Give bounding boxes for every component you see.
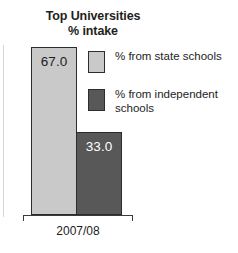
- bar-state-schools: 67.0: [31, 47, 77, 215]
- bar-independent-schools: 33.0: [76, 132, 122, 215]
- x-axis-tick-right: [132, 215, 133, 221]
- bar-chart: Top Universities % intake 67.0 33.0 2007…: [0, 0, 238, 253]
- bar-value-state-schools: 67.0: [32, 54, 76, 69]
- legend-swatch-state-schools-icon: [88, 51, 105, 73]
- bar-value-independent-schools: 33.0: [77, 139, 121, 154]
- legend-label-independent-schools: % from independent schools: [115, 87, 237, 115]
- x-axis-baseline: [23, 215, 133, 216]
- plot-left-rule: [3, 45, 4, 217]
- x-axis-category-label: 2007/08: [18, 224, 138, 238]
- plot-area: 67.0 33.0: [31, 47, 123, 215]
- x-axis-tick-left: [23, 215, 24, 221]
- legend-label-state-schools: % from state schools: [115, 49, 237, 63]
- chart-title-line-1: Top Universities: [46, 9, 141, 23]
- legend-swatch-independent-schools-icon: [88, 89, 105, 111]
- chart-title-line-2: % intake: [14, 24, 172, 39]
- chart-title: Top Universities % intake: [14, 9, 172, 39]
